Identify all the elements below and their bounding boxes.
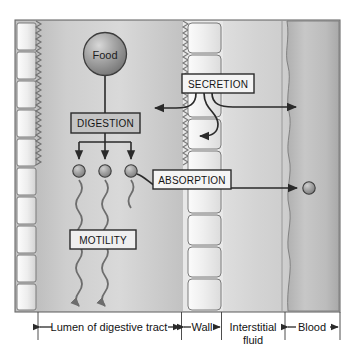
nutrient-particle[interactable] (73, 165, 85, 177)
absorbed-particle-in-blood[interactable] (303, 182, 315, 194)
diagram-svg: Food DIGESTION (0, 0, 351, 358)
food-label: Food (92, 49, 117, 61)
wall-region (183, 21, 223, 311)
nutrient-particle[interactable] (125, 165, 137, 177)
region-label-blood-text: Blood (298, 321, 326, 333)
figure-canvas: Food DIGESTION (0, 0, 351, 358)
secretion-box-label: SECRETION (188, 79, 248, 90)
digestion-box[interactable]: DIGESTION (71, 113, 140, 133)
food-node[interactable]: Food (84, 33, 127, 76)
region-label-wall-text: Wall (192, 321, 213, 333)
panel: Food DIGESTION (15, 20, 340, 312)
region-label-lumen: Lumen of digestive tract (40, 321, 180, 333)
interstitial-fluid-region (223, 21, 287, 311)
motility-box[interactable]: MOTILITY (70, 230, 136, 249)
blood-vessel (287, 21, 339, 311)
secretion-box[interactable]: SECRETION (182, 74, 254, 93)
absorption-box-label: ABSORPTION (158, 175, 226, 186)
blood-region (282, 21, 339, 311)
region-label-lumen-text: Lumen of digestive tract (51, 321, 168, 333)
nutrient-particle[interactable] (99, 165, 111, 177)
absorption-box[interactable]: ABSORPTION (153, 170, 231, 189)
motility-box-label: MOTILITY (79, 235, 127, 246)
nutrient-particles (73, 165, 137, 177)
region-label-interstitial-line1: Interstitial (229, 321, 276, 333)
digestion-box-label: DIGESTION (77, 118, 134, 129)
wall-cells (188, 23, 221, 310)
region-label-interstitial-line2: fluid (243, 334, 263, 346)
